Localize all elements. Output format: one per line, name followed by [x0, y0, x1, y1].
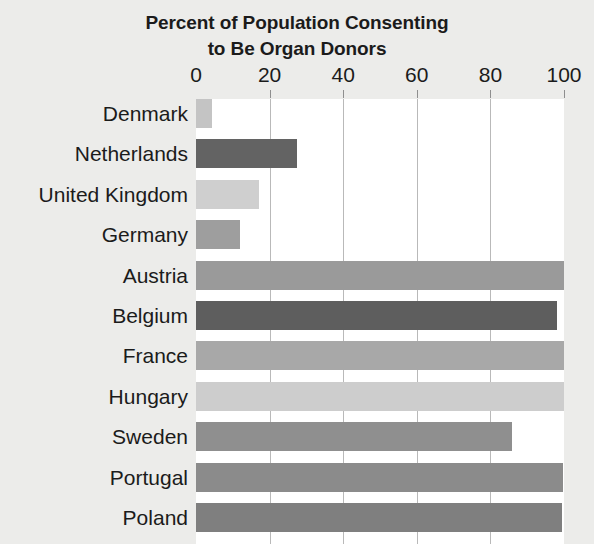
bar — [196, 180, 259, 209]
category-label: Poland — [0, 503, 188, 532]
bar — [196, 220, 240, 249]
x-tick-mark — [270, 90, 271, 98]
x-axis-tick-marks — [0, 90, 594, 98]
category-label: Sweden — [0, 422, 188, 451]
category-label: Austria — [0, 261, 188, 290]
x-tick-label: 80 — [479, 62, 502, 88]
x-tick-label: 0 — [190, 62, 202, 88]
x-tick-mark — [564, 90, 565, 98]
x-tick-label: 100 — [546, 62, 581, 88]
category-label: Netherlands — [0, 139, 188, 168]
chart-title: Percent of Population Consenting to Be O… — [0, 10, 594, 62]
chart-title-line-1: Percent of Population Consenting — [0, 10, 594, 36]
x-axis-tick-labels: 020406080100 — [0, 62, 594, 88]
bar — [196, 503, 562, 532]
chart-title-line-2: to Be Organ Donors — [0, 36, 594, 62]
x-tick-label: 60 — [405, 62, 428, 88]
y-axis-category-labels: DenmarkNetherlandsUnited KingdomGermanyA… — [0, 99, 188, 544]
bar — [196, 99, 212, 128]
category-label: Portugal — [0, 463, 188, 492]
bar — [196, 422, 512, 451]
bar — [196, 301, 557, 330]
bar — [196, 463, 563, 492]
bar — [196, 261, 564, 290]
chart-figure: Percent of Population Consenting to Be O… — [0, 0, 594, 544]
category-label: United Kingdom — [0, 180, 188, 209]
category-label: Belgium — [0, 301, 188, 330]
category-label: Germany — [0, 220, 188, 249]
plot-area — [196, 99, 564, 544]
x-tick-mark — [490, 90, 491, 98]
category-label: Hungary — [0, 382, 188, 411]
bar — [196, 139, 297, 168]
x-tick-label: 20 — [258, 62, 281, 88]
x-tick-mark — [417, 90, 418, 98]
bar — [196, 341, 564, 370]
category-label: Denmark — [0, 99, 188, 128]
category-label: France — [0, 341, 188, 370]
x-tick-label: 40 — [332, 62, 355, 88]
bar — [196, 382, 564, 411]
x-tick-mark — [343, 90, 344, 98]
